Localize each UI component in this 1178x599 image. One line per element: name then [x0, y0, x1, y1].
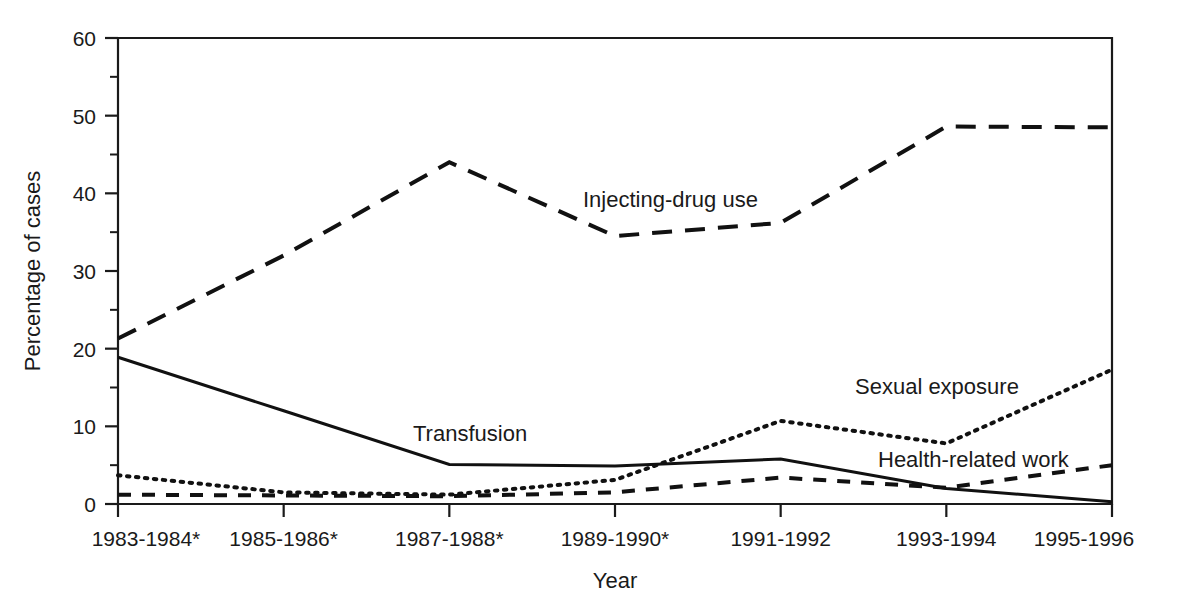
y-axis-tick-labels: 0102030405060 — [73, 27, 96, 516]
x-tick-label: 1995-1996 — [1034, 527, 1134, 550]
series-annotations-group: Injecting-drug useTransfusionSexual expo… — [413, 187, 1070, 472]
x-tick-label: 1993-1994 — [896, 527, 997, 550]
line-chart-figure: 0102030405060 1983-1984*1985-1986*1987-1… — [0, 0, 1178, 599]
x-axis-ticks — [118, 504, 1112, 517]
y-tick-label: 0 — [84, 493, 96, 516]
series-line-injecting-drug-use — [118, 127, 1112, 339]
x-tick-label: 1985-1986* — [229, 527, 338, 550]
y-tick-label: 40 — [73, 182, 96, 205]
y-tick-label: 10 — [73, 415, 96, 438]
y-tick-label: 60 — [73, 27, 96, 50]
chart-svg-canvas: 0102030405060 1983-1984*1985-1986*1987-1… — [0, 0, 1178, 599]
x-tick-label: 1983-1984* — [92, 527, 201, 550]
x-tick-label: 1989-1990* — [561, 527, 670, 550]
series-label-injecting-drug-use: Injecting-drug use — [583, 187, 758, 212]
y-tick-label: 30 — [73, 260, 96, 283]
x-axis-tick-labels: 1983-1984*1985-1986*1987-1988*1989-1990*… — [92, 527, 1135, 550]
data-series-group — [118, 127, 1112, 502]
x-tick-label: 1987-1988* — [395, 527, 504, 550]
y-tick-label: 50 — [73, 105, 96, 128]
axis-frame-path — [118, 38, 1112, 504]
series-label-sexual-exposure: Sexual exposure — [855, 374, 1019, 399]
x-tick-label: 1991-1992 — [730, 527, 830, 550]
chart-figure-root: 0102030405060 1983-1984*1985-1986*1987-1… — [0, 0, 1178, 599]
y-axis-ticks — [105, 38, 118, 504]
x-axis-title: Year — [593, 568, 637, 593]
series-label-transfusion: Transfusion — [413, 421, 527, 446]
plot-frame — [118, 38, 1112, 504]
y-tick-label: 20 — [73, 338, 96, 361]
series-label-health-related-work: Health-related work — [878, 447, 1070, 472]
y-axis-title: Percentage of cases — [20, 171, 45, 372]
